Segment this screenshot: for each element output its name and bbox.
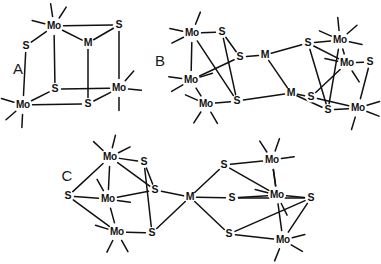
atom-label-mo: Mo [351,102,365,113]
bond-M-S [197,197,226,198]
terminal-ligand-bond [352,71,359,82]
terminal-ligand-bond [107,241,113,253]
bond-M-S [195,169,220,192]
bond-Mo-S [286,196,304,198]
terminal-ligand-bond [169,77,182,79]
terminal-ligand-bond [196,12,201,24]
structure-panel-B: MoSSMMoMoSMSSMoMoSSMoB [155,12,380,129]
terminal-ligand-bond [367,102,379,106]
terminal-ligand-bond [122,240,128,251]
terminal-ligand-bond [1,99,13,103]
atom-label-mo: Mo [333,34,347,45]
atom-label-mo: Mo [16,99,30,110]
terminal-ligand-bond [211,112,218,123]
terminal-ligand-bond [185,95,197,100]
terminal-ligand-bond [281,157,294,159]
atom-label-group: MoSSSMoMoSMSSSMoMoSMo [63,149,317,249]
atom-label-s: S [308,191,315,203]
bond-Mo-S [33,104,82,105]
bond-S-Mo [230,168,269,190]
bond-Mo-S [119,158,137,161]
terminal-ligand-bond [128,89,141,90]
bond-S-Mo [235,235,273,239]
terminal-ligand-bond [172,85,183,92]
bond-S-Mo [23,52,25,95]
bond-S-Mo [317,98,348,105]
bond-M-S [94,28,114,39]
terminal-ligand-bond [347,25,357,34]
bond-S-Mo [314,41,330,43]
bond-Mo-Mo [196,88,201,96]
bond-Mo-M [63,30,83,40]
bond-S-M [161,191,183,195]
terminal-ligand-bond [367,111,379,116]
bond-Mo-S [127,232,146,233]
atom-label-mo: Mo [185,27,199,38]
bond-Mo-S [32,92,50,101]
atom-label-s: S [325,103,332,115]
bond-Mo-S [64,25,113,26]
atom-label-mo: Mo [47,20,61,31]
terminal-ligand-bond [338,18,339,31]
bond-S-S [226,37,236,51]
atom-label-mo: Mo [112,82,126,93]
terminal-ligand-bond [325,59,338,62]
bond-S-Mo [230,161,262,164]
terminal-ligand-bond [260,141,267,152]
atom-label-s: S [234,94,241,106]
atom-label-mo: Mo [199,98,213,109]
panel-label-a: A [13,60,23,77]
terminal-ligand-bond [291,245,302,252]
terminal-ligand-bond [275,139,279,151]
atom-label-s: S [52,82,59,94]
atom-label-mo: Mo [184,74,198,85]
bond-S-Mo [288,203,307,232]
terminal-ligand-bond [292,235,305,238]
atom-label-m: M [186,190,195,202]
bond-S-M [243,94,284,100]
terminal-ligand-bond [94,142,104,151]
bond-S-Mo [334,109,348,110]
bond-Mo-S [360,68,368,99]
structure-canvas: MoSMSSMoSMoAMoSSMMoMoSMSSMoMoSSMoBMoSSSM… [0,0,381,264]
terminal-ligand-bond [97,179,103,190]
terminal-ligand-bond [112,135,115,148]
atom-label-mo: Mo [340,57,354,68]
atom-label-s: S [308,90,315,102]
atom-label-mo: Mo [110,226,124,237]
terminal-ligand-bond [117,200,130,202]
atom-label-s: S [367,55,374,67]
bond-S-S [146,168,152,184]
atom-label-mo: Mo [276,234,290,245]
bond-Mo-S [117,191,148,197]
bond-Mo-Mo [111,208,115,223]
terminal-ligand-bond [170,29,183,32]
atom-label-s: S [152,183,159,195]
bond-Mo-S [54,36,55,83]
atom-label-mo: Mo [270,189,284,200]
bond-Mo-S [215,102,230,103]
terminal-ligand-bond [59,7,66,18]
atom-label-s: S [116,18,123,30]
atom-label-s: S [305,36,312,48]
terminal-ligand-bond [125,71,134,81]
terminal-ligand-bond [51,4,53,17]
atom-label-group: MoSMSSMoSMo [15,18,128,114]
bond-M-S [271,45,301,54]
bond-Mo-S [73,163,103,191]
terminal-ligand-bond [255,190,268,193]
bond-Mo-Mo [108,166,109,189]
terminal-ligand-bond [96,225,108,229]
bond-Mo-Mo [191,43,192,71]
bond-S-M [246,56,258,57]
terminal-ligand-bond [194,112,201,123]
structure-panel-A: MoSMSSMoSMoA [1,4,141,128]
atom-label-m: M [84,36,93,48]
bond-M-S [297,94,304,95]
bond-group [23,25,119,105]
bond-S-Mo [314,46,339,59]
terminal-ligand-bond [6,111,16,120]
panel-label-b: B [155,52,165,69]
structure-panel-C: MoSSSMoMoSMSSSMoMoSMoC [62,135,317,261]
bond-S-Mo [62,88,110,89]
